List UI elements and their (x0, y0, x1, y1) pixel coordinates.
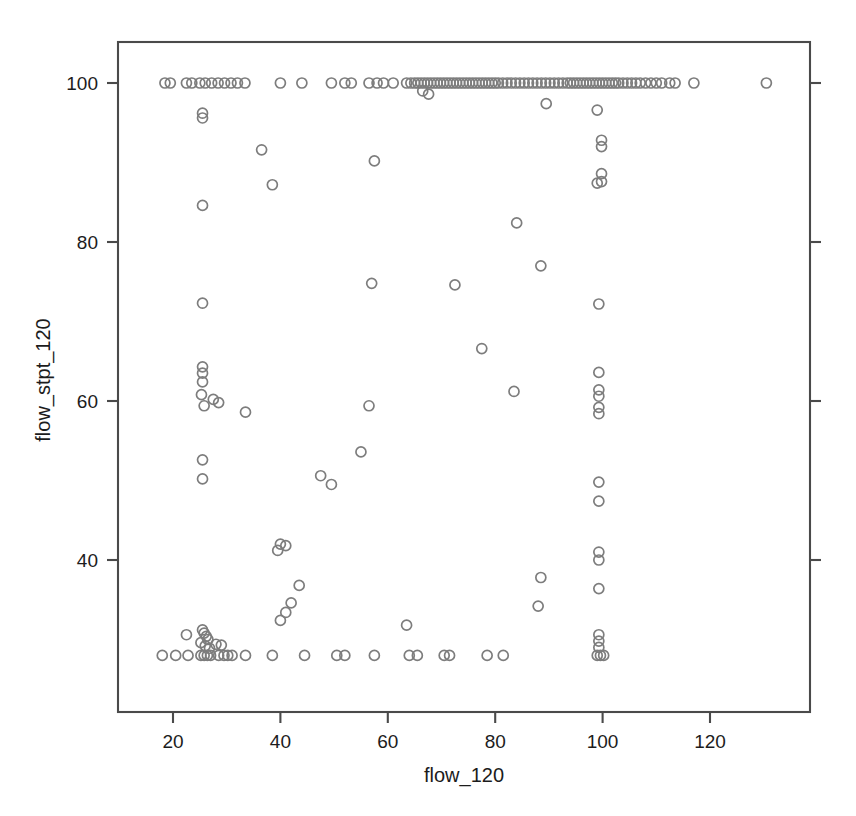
y-tick-label: 100 (66, 73, 98, 94)
x-tick-label: 100 (587, 731, 619, 752)
x-tick-label: 120 (694, 731, 726, 752)
x-axis-title: flow_120 (424, 764, 504, 787)
y-tick-label: 40 (77, 550, 98, 571)
chart-canvas: 20406080100120 406080100 flow_120 flow_s… (0, 0, 856, 816)
y-tick-label: 80 (77, 232, 98, 253)
y-tick-label: 60 (77, 391, 98, 412)
x-tick-label: 80 (485, 731, 506, 752)
scatter-plot-figure: 20406080100120 406080100 flow_120 flow_s… (0, 0, 856, 816)
x-tick-label: 60 (377, 731, 398, 752)
chart-background (0, 0, 856, 816)
y-axis-title: flow_stpt_120 (32, 318, 55, 441)
x-tick-label: 40 (270, 731, 291, 752)
x-tick-label: 20 (162, 731, 183, 752)
